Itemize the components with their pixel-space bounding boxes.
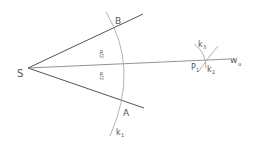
label-k1: k 1 bbox=[116, 128, 124, 138]
svg-text:α: α bbox=[238, 61, 242, 67]
ray-sa bbox=[28, 68, 144, 108]
svg-text:2: 2 bbox=[212, 69, 215, 75]
svg-text:1: 1 bbox=[196, 67, 199, 73]
svg-text:w: w bbox=[230, 55, 237, 65]
svg-text:3: 3 bbox=[203, 44, 206, 50]
label-b: B bbox=[115, 16, 121, 26]
label-half-angle-lower: α/2 bbox=[99, 72, 105, 80]
label-half-angle-upper: α/2 bbox=[99, 50, 105, 58]
ray-sb bbox=[28, 14, 143, 68]
label-k3: k 3 bbox=[198, 40, 206, 50]
label-s: S bbox=[17, 68, 23, 79]
svg-text:1: 1 bbox=[121, 132, 124, 138]
label-k2: k 2 bbox=[207, 65, 215, 75]
label-w-alpha: w α bbox=[230, 55, 242, 67]
angle-bisector-diagram: S B A k 1 k 3 k 2 P 1 w α α/2 α/2 bbox=[0, 0, 256, 146]
bisector-line bbox=[28, 59, 230, 68]
label-a: A bbox=[123, 108, 130, 118]
label-p: P 1 bbox=[191, 63, 199, 73]
